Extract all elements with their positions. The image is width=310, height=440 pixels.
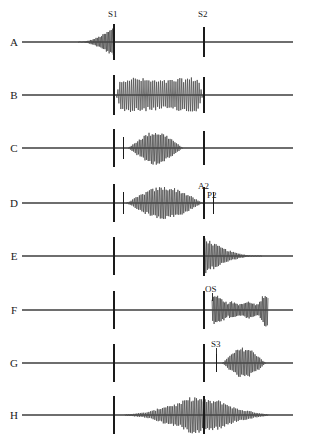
murmur-f-rumble-crescendo [212,296,268,327]
marker-label-s2: S2 [198,9,208,19]
marker-label-s1: S1 [108,9,118,19]
marker-label-s3: S3 [211,339,221,349]
phonocardiogram-canvas: ABCDEFGHS1S2A2P2OSS3 [0,0,310,440]
row-label-a: A [10,36,18,48]
trace-row-e: E [11,236,293,276]
trace-row-c: C [10,129,293,167]
trace-row-h: H [10,396,293,434]
marker-label-os: OS [205,284,217,294]
row-label-h: H [10,409,18,421]
row-label-f: F [11,304,17,316]
murmur-a-crescendo [78,28,114,55]
trace-row-f: F [11,291,293,329]
trace-row-b: B [10,75,293,115]
row-label-g: G [10,357,18,369]
murmur-c-diamond [128,133,183,165]
murmur-g-diamond [222,348,266,377]
row-label-b: B [10,89,17,101]
trace-row-d: D [10,184,293,222]
trace-row-a: A [10,24,293,60]
phonocardiogram-figure: ABCDEFGHS1S2A2P2OSS3 [0,0,310,440]
row-label-d: D [10,197,18,209]
row-label-e: E [11,250,18,262]
marker-label-p2: P2 [207,190,217,200]
trace-row-g: G [10,344,293,382]
row-label-c: C [10,142,17,154]
